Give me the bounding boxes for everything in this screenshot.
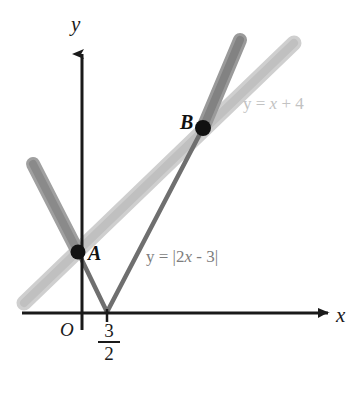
x-axis-label: x	[336, 305, 345, 326]
eq-line-suffix: + 4	[277, 94, 304, 113]
y-axis-label: y	[71, 14, 80, 35]
point-a-dot	[71, 245, 86, 260]
eq-line-prefix: y =	[243, 94, 270, 113]
point-b-label: B	[180, 112, 193, 132]
fraction-denominator: 2	[97, 343, 121, 363]
fraction-numerator: 3	[97, 321, 121, 341]
eq-abs-prefix: y = |2	[146, 247, 185, 266]
eq-abs-variable: x	[185, 247, 193, 266]
equation-label-absolute-value: y = |2x - 3|	[146, 248, 218, 265]
origin-label: O	[60, 320, 74, 339]
math-figure: y x O A B y = |2x - 3| y = x + 4 3 2	[0, 0, 361, 404]
eq-line-variable: x	[270, 94, 278, 113]
x-tick-label-three-halves: 3 2	[97, 321, 121, 364]
eq-abs-suffix: - 3|	[192, 247, 218, 266]
point-a-label: A	[88, 243, 101, 263]
graph-canvas	[0, 0, 361, 404]
point-b-dot	[195, 120, 211, 136]
equation-label-straight-line: y = x + 4	[243, 95, 304, 112]
abs-left-thick-inner	[33, 164, 78, 252]
